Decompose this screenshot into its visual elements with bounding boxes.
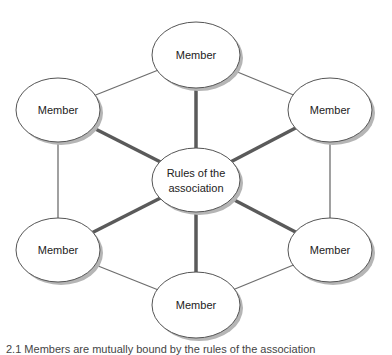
member-node-top: Member <box>152 22 243 91</box>
member-label: Member <box>310 104 351 116</box>
center-label-line2: association <box>168 182 223 194</box>
member-label: Member <box>176 299 217 311</box>
member-node-bottom: Member <box>152 272 243 341</box>
member-label: Member <box>38 104 79 116</box>
member-node-lower-right: Member <box>288 218 375 285</box>
member-label: Member <box>176 49 217 61</box>
center-label-line1: Rules of the <box>167 167 226 179</box>
member-node-upper-right: Member <box>288 78 375 145</box>
member-label: Member <box>38 244 79 256</box>
member-label: Member <box>310 244 351 256</box>
center-node: Rules of the association <box>152 148 243 215</box>
member-node-upper-left: Member <box>16 78 103 145</box>
member-node-lower-left: Member <box>16 218 103 285</box>
figure-caption: 2.1 Members are mutually bound by the ru… <box>6 343 315 355</box>
